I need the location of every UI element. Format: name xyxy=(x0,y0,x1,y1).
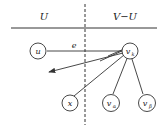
edge-vk-vb xyxy=(131,56,143,94)
region-label-u: U xyxy=(40,11,49,22)
svg-text:v: v xyxy=(143,99,148,108)
edge-vk-x xyxy=(74,55,124,96)
svg-text:k: k xyxy=(131,51,134,57)
cut-diagram: U V−U e u v k x v α v β xyxy=(0,0,168,130)
region-label-v-minus-u: V−U xyxy=(113,11,138,22)
node-u: u xyxy=(30,43,46,59)
edge-vk-extra-2 xyxy=(100,50,124,61)
node-x: x xyxy=(62,95,78,111)
node-vk: v k xyxy=(122,43,138,59)
svg-text:x: x xyxy=(68,99,73,108)
svg-text:v: v xyxy=(126,47,131,56)
svg-text:β: β xyxy=(148,103,152,110)
node-v-alpha: v α xyxy=(103,95,120,112)
node-v-beta: v β xyxy=(139,95,156,112)
svg-text:v: v xyxy=(107,99,112,108)
svg-text:u: u xyxy=(35,47,40,56)
edge-label-e: e xyxy=(72,41,77,50)
